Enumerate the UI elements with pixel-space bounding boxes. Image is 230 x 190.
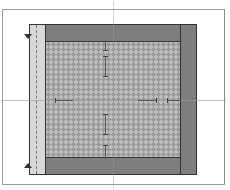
bottom-left-triangle-icon (24, 163, 32, 168)
vertical-center-guide (113, 1, 114, 189)
top-margin-arrow-tick (103, 50, 108, 51)
top-margin-arrow (105, 42, 106, 50)
left-inner-span (55, 100, 73, 101)
right-margin-arrow-tick (167, 98, 168, 103)
top-inner-span-cap-top (103, 56, 108, 57)
top-inner-span (105, 56, 106, 76)
bottom-inner-span (105, 114, 106, 134)
right-margin-arrow (167, 100, 181, 101)
bottom-inner-span-cap-top (103, 114, 108, 115)
right-inner-span-cap (156, 98, 157, 103)
bottom-margin-arrow-tick (103, 145, 108, 146)
page-layout-panel (29, 24, 197, 175)
right-inner-span (138, 100, 156, 101)
left-inner-span-cap (55, 98, 56, 103)
bottom-inner-span-cap-bottom (103, 134, 108, 135)
top-inner-span-cap-bottom (103, 76, 108, 77)
bottom-margin-arrow (105, 145, 106, 159)
top-left-triangle-icon (24, 34, 32, 39)
